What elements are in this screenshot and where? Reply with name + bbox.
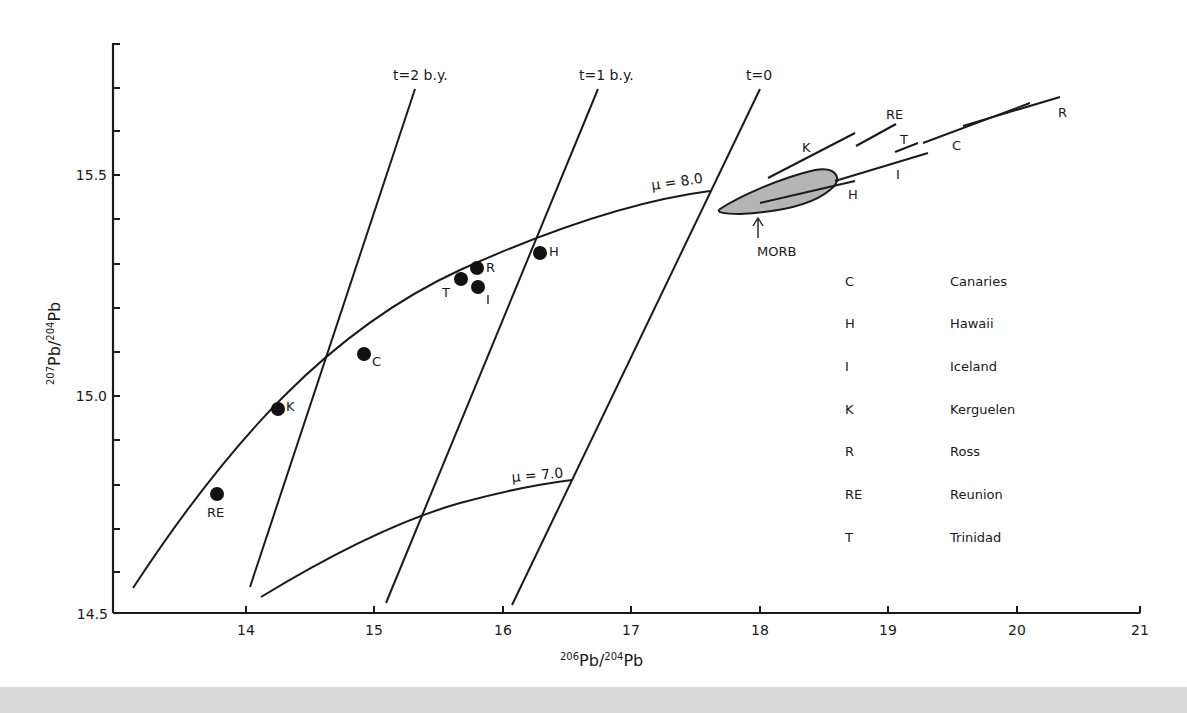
pb-isotope-chart: 15.5 15.0 14.5 14 15 16 17 18 19 20 21 2… <box>0 0 1187 713</box>
point-h <box>533 246 547 260</box>
morb-label: MORB <box>757 244 796 259</box>
bottom-gray-band <box>0 687 1187 713</box>
legend: C Canaries H Hawaii I Iceland K Kerguele… <box>844 274 1015 545</box>
legend-name: Reunion <box>950 487 1003 502</box>
legend-code: R <box>845 444 854 459</box>
point-label-k: K <box>286 399 295 414</box>
point-label-i: I <box>486 292 490 307</box>
legend-name: Canaries <box>950 274 1007 289</box>
y-axis <box>113 44 120 613</box>
array-re <box>856 124 896 146</box>
x-tick-label: 21 <box>1131 622 1149 638</box>
point-c <box>357 347 371 361</box>
isochron-t2 <box>250 89 415 587</box>
array-label-i: I <box>896 167 900 182</box>
point-label-t: T <box>441 285 450 300</box>
legend-name: Hawaii <box>950 316 994 331</box>
isochrons <box>250 89 760 605</box>
x-tick-label: 19 <box>879 622 897 638</box>
point-i <box>471 280 485 294</box>
x-tick-label: 18 <box>751 622 769 638</box>
legend-name: Ross <box>950 444 980 459</box>
point-label-h: H <box>549 244 559 259</box>
x-tick-label: 16 <box>494 622 512 638</box>
point-labels: RE K C T R I H <box>207 244 559 520</box>
y-tick-label: 15.0 <box>76 388 107 404</box>
point-k <box>271 402 285 416</box>
x-tick-label: 15 <box>365 622 383 638</box>
isochron-t0 <box>512 89 760 605</box>
array-label-r: R <box>1058 105 1067 120</box>
legend-code: RE <box>845 487 862 502</box>
legend-name: Trinidad <box>949 530 1001 545</box>
array-i <box>835 153 928 181</box>
x-axis-label: 206Pb/204Pb <box>560 651 643 670</box>
isochron-label-t1: t=1 b.y. <box>579 67 634 83</box>
legend-name: Kerguelen <box>950 402 1015 417</box>
y-tick-labels: 15.5 15.0 14.5 <box>76 167 108 622</box>
array-label-re: RE <box>886 107 903 122</box>
legend-code: H <box>845 316 855 331</box>
oib-array-labels: K RE T C R I H <box>802 105 1067 202</box>
point-re <box>210 487 224 501</box>
data-points <box>210 246 547 501</box>
x-tick-label: 14 <box>237 622 255 638</box>
isochron-labels: t=2 b.y. t=1 b.y. t=0 <box>393 67 772 83</box>
x-tick-labels: 14 15 16 17 18 19 20 21 <box>237 622 1149 638</box>
point-t <box>454 272 468 286</box>
y-tick-label: 14.5 <box>77 606 108 622</box>
legend-name: Iceland <box>950 359 997 374</box>
growth-curves <box>133 191 710 597</box>
legend-code: K <box>845 402 854 417</box>
isochron-label-t0: t=0 <box>746 67 772 83</box>
x-tick-label: 20 <box>1008 622 1026 638</box>
point-label-re: RE <box>207 505 224 520</box>
legend-code: T <box>844 530 853 545</box>
growth-curve-mu8 <box>133 191 710 588</box>
isochron-label-t2: t=2 b.y. <box>393 67 448 83</box>
array-label-t: T <box>899 132 908 147</box>
array-label-k: K <box>802 140 811 155</box>
point-label-c: C <box>372 354 381 369</box>
array-label-h: H <box>848 187 858 202</box>
isochron-t1 <box>386 89 598 603</box>
morb-field <box>719 169 837 214</box>
array-label-c: C <box>952 138 961 153</box>
point-label-r: R <box>486 260 495 275</box>
y-axis-label: 207Pb/204Pb <box>45 302 64 385</box>
mu8-label: μ = 8.0 <box>650 170 704 193</box>
point-r <box>470 261 484 275</box>
legend-code: I <box>845 359 849 374</box>
array-r <box>963 97 1060 126</box>
y-tick-label: 15.5 <box>76 167 107 183</box>
x-tick-label: 17 <box>622 622 640 638</box>
legend-code: C <box>845 274 854 289</box>
